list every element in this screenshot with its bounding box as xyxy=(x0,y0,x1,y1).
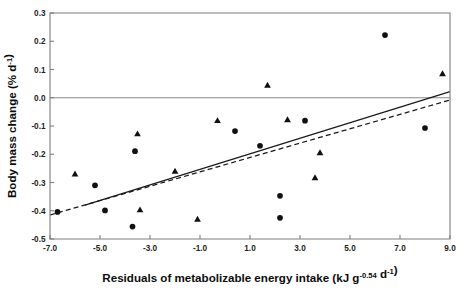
x-tick-label: -7.0 xyxy=(43,244,58,253)
x-tick-label: 7.0 xyxy=(394,244,406,253)
data-point-circle xyxy=(257,143,263,149)
x-tick-label: -3.0 xyxy=(143,244,158,253)
data-point-circle xyxy=(382,32,388,38)
y-tick-label: 0.2 xyxy=(34,37,46,46)
data-point-circle xyxy=(277,193,283,199)
x-tick-label: 9.0 xyxy=(444,244,456,253)
y-tick-label: -0.2 xyxy=(31,150,46,159)
y-axis-title: Body mass change (% d-1) xyxy=(1,54,18,198)
scatter-plot: -7.0-5.0-3.0-1.01.03.05.07.09.00.30.20.1… xyxy=(0,0,465,292)
y-tick-label: 0.3 xyxy=(34,9,46,18)
y-tick-label: -0.4 xyxy=(31,207,46,216)
data-point-circle xyxy=(130,224,136,230)
x-tick-label: 1.0 xyxy=(244,244,256,253)
data-point-circle xyxy=(302,118,308,124)
plot-background xyxy=(50,13,450,239)
x-tick-label: 3.0 xyxy=(294,244,306,253)
y-tick-label: 0.0 xyxy=(34,94,46,103)
x-tick-label: -1.0 xyxy=(193,244,208,253)
y-tick-label: 0.1 xyxy=(34,66,46,75)
data-point-circle xyxy=(92,182,98,188)
data-point-circle xyxy=(422,125,428,131)
data-point-circle xyxy=(55,209,61,215)
figure-container: -7.0-5.0-3.0-1.01.03.05.07.09.00.30.20.1… xyxy=(0,0,465,292)
x-tick-label: -5.0 xyxy=(93,244,108,253)
y-tick-label: -0.1 xyxy=(31,122,46,131)
data-point-circle xyxy=(132,148,138,154)
data-point-circle xyxy=(102,208,108,214)
x-axis-title: Residuals of metabolizable energy intake… xyxy=(102,263,397,284)
x-tick-label: 5.0 xyxy=(344,244,356,253)
y-tick-label: -0.3 xyxy=(31,179,46,188)
data-point-circle xyxy=(232,128,238,134)
y-tick-label: -0.5 xyxy=(31,235,46,244)
data-point-circle xyxy=(277,215,283,221)
